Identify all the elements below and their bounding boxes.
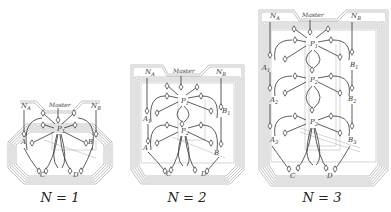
n3-walls — [259, 10, 388, 186]
n2-label-na: NA — [144, 68, 155, 77]
n1-label-master: Master — [48, 101, 72, 108]
n3-caption: N = 3 — [302, 190, 342, 205]
n3-label-p1: P1 — [309, 40, 318, 49]
n3-label-c: C — [290, 172, 296, 180]
n3-label-nb: NB — [350, 12, 361, 21]
n2-label-p2: P2 — [180, 127, 189, 136]
panel-n2: NA Master NB P1 P2 A1 B1 A B C D — [131, 65, 244, 205]
n2-label-p1: P1 — [180, 97, 189, 106]
figure: NA Master NB P1 A B C D N = 1 — [0, 0, 391, 212]
n3-label-b1: B1 — [349, 61, 358, 70]
n2-label-a1: A1 — [142, 115, 151, 124]
n2-label-b: B — [213, 149, 219, 157]
n3-label-master: Master — [301, 11, 325, 18]
n1-label-a: A — [20, 138, 26, 146]
n2-label-a: A — [142, 144, 148, 152]
n2-label-nb: NB — [215, 68, 226, 77]
n2-label-master: Master — [172, 67, 196, 74]
n2-edges — [145, 76, 223, 174]
n3-label-b3: B3 — [347, 136, 356, 145]
n3-label-p2: P2 — [309, 76, 318, 85]
n3-label-d: D — [326, 172, 333, 180]
n3-label-p3: P3 — [309, 118, 318, 127]
n3-label-a3: A3 — [269, 136, 278, 145]
n1-label-b: B — [87, 138, 93, 146]
n2-caption: N = 2 — [167, 190, 207, 205]
n3-label-a2: A2 — [269, 96, 278, 105]
n1-edges — [22, 108, 98, 174]
n3-label-na: NA — [269, 12, 280, 21]
n1-label-d: D — [72, 171, 79, 179]
n1-caption: N = 1 — [40, 190, 80, 205]
panel-n3: NA Master NB P1 P2 P3 A1 B1 A2 B2 A3 B3 … — [259, 10, 388, 205]
panel-n1: NA Master NB P1 A B C D N = 1 — [8, 101, 112, 205]
n3-label-b2: B2 — [347, 95, 356, 104]
